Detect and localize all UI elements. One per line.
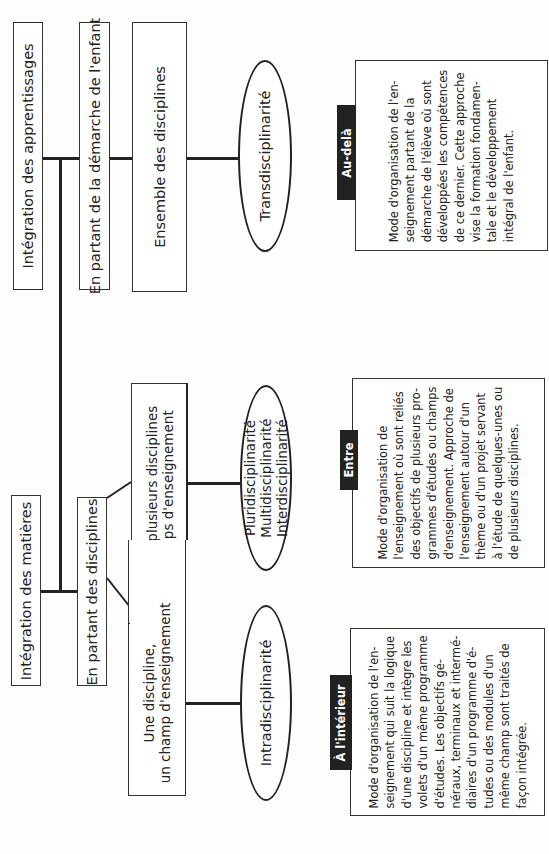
scope-line: un champ d'enseignement	[157, 603, 173, 784]
desc-line: d'enseignement. Approche de	[440, 386, 456, 559]
description-entre: Mode d'organisation de l'enseignement où…	[375, 386, 523, 559]
desc-line: vise la formation fondamen-	[468, 69, 484, 241]
desc-line: volets d'un même programme	[415, 636, 431, 809]
label-transdisciplinarite: Transdisciplinarité	[257, 90, 274, 221]
description-au-dela: Mode d'organisation de l'en- seignement …	[386, 69, 517, 241]
type-line: Multidisciplinarité	[258, 418, 274, 537]
connector-top-scope-type	[187, 157, 238, 160]
label-une-discipline: Une discipline, un champ d'enseignement	[141, 603, 173, 784]
label-intradisciplinarite: Intradisciplinarité	[258, 640, 275, 767]
desc-line: tale et le développement	[484, 69, 500, 241]
desc-line: grammes d'études ou champs	[424, 386, 440, 559]
desc-line: d'une discipline et intègre les	[398, 636, 414, 809]
ellipse-transdisciplinarite: Transdisciplinarité	[238, 60, 292, 252]
tab-au-dela: Au-delà	[337, 105, 356, 200]
desc-line: Mode d'organisation de	[375, 386, 391, 559]
desc-line: intégral de l'enfant.	[501, 69, 517, 241]
desc-line: des objectifs de plusieurs pro-	[407, 386, 423, 559]
connector-bottom-root	[41, 590, 77, 593]
description-box-interieur: Mode d'organisation de l'en- seignement …	[350, 628, 545, 816]
connector-single-scope-type	[184, 702, 240, 705]
box-ensemble-disciplines: Ensemble des disciplines	[132, 22, 187, 292]
box-une-discipline: Une discipline, un champ d'enseignement	[128, 540, 186, 796]
label-integration-matieres: Intégration des matières	[18, 501, 35, 680]
label-entre: Entre	[342, 442, 356, 477]
desc-line: d'études. Les objectifs gé-	[431, 636, 447, 809]
desc-line: seignement partant de la	[402, 69, 418, 241]
desc-line: Mode d'organisation de l'en-	[386, 69, 402, 241]
middle-box-right-border	[186, 383, 188, 540]
desc-line: même champ sont traités de	[497, 636, 513, 809]
type-line: Interdisciplinarité	[274, 418, 290, 537]
label-integration-apprentissages: Intégration des apprentissages	[20, 43, 37, 268]
label-a-l-interieur: À l'intérieur	[334, 684, 348, 761]
desc-line: démarche de l'élève où sont	[419, 69, 435, 241]
box-demarche-enfant: En partant de la démarche de l'enfant	[79, 22, 110, 290]
desc-line: développées les compétences	[435, 69, 451, 241]
ellipse-intradisciplinarite: Intradisciplinarité	[240, 605, 292, 801]
scope-line: Une discipline,	[141, 603, 157, 784]
box-integration-matieres: Intégration des matières	[11, 495, 41, 686]
tab-entre: Entre	[340, 430, 358, 490]
desc-line: tudes ou des modules d'un	[480, 636, 496, 809]
ellipse-pluri-multi-inter: Pluridisciplinarité Multidisciplinarité …	[240, 385, 292, 571]
label-partant-disciplines: En partant des disciplines	[84, 498, 101, 685]
tab-a-l-interieur: À l'intérieur	[330, 675, 352, 770]
description-box-au-dela: Mode d'organisation de l'en- seignement …	[355, 60, 548, 251]
label-au-dela: Au-delà	[340, 128, 354, 178]
desc-line: à l'étude de quelques-unes ou	[490, 386, 506, 559]
connector-top-approach-scope	[110, 157, 132, 160]
desc-line: thème ou d'un projet servant	[473, 386, 489, 559]
description-interieur: Mode d'organisation de l'en- seignement …	[365, 636, 529, 809]
connector-top-root	[43, 157, 79, 160]
desc-line: de plusieurs disciplines.	[506, 386, 522, 559]
connector-middle-scope-type	[187, 482, 240, 485]
desc-line: néraux, terminaux et intermé-	[448, 636, 464, 809]
label-ensemble-disciplines: Ensemble des disciplines	[151, 66, 168, 248]
desc-line: Mode d'organisation de l'en-	[365, 636, 381, 809]
desc-line: l'enseignement où sont reliés	[391, 386, 407, 559]
desc-line: de ce dernier. Cette approche	[452, 69, 468, 241]
desc-line: façon intégrée.	[513, 636, 529, 809]
trunk-line	[59, 158, 62, 590]
label-pluri-multi-inter: Pluridisciplinarité Multidisciplinarité …	[242, 418, 290, 537]
box-integration-apprentissages: Intégration des apprentissages	[13, 22, 43, 290]
desc-line: l'enseignement autour d'un	[457, 386, 473, 559]
une-discipline-top-border	[128, 623, 130, 624]
description-box-entre: Mode d'organisation de l'enseignement où…	[352, 378, 545, 568]
box-partant-disciplines: En partant des disciplines	[77, 497, 107, 686]
label-demarche-enfant: En partant de la démarche de l'enfant	[86, 18, 103, 295]
type-line: Pluridisciplinarité	[242, 418, 258, 537]
desc-line: diaires d'un programme d'é-	[464, 636, 480, 809]
desc-line: seignement qui suit la logique	[382, 636, 398, 809]
